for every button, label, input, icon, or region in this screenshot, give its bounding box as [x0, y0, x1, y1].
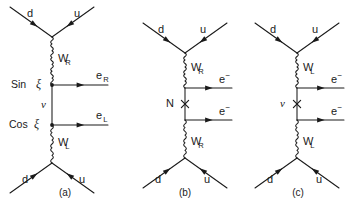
diagram-b-label-boson-1-subscript: R [198, 141, 204, 150]
diagram-c-arrow-bottom-in [275, 168, 283, 174]
diagram-b-label-boson-1: WR [191, 135, 204, 150]
diagram-c-label-lepton-0-base: e [331, 73, 337, 85]
diagram-c-caption: (c) [292, 187, 304, 198]
diagram-a-caption: (a) [59, 187, 71, 198]
diagram-a-label-boson-0-subscript: R [65, 58, 71, 67]
diagram-a-label-lepton-0-subscript: R [103, 75, 109, 84]
diagram-a-label-mixing-text-1: Cos [9, 118, 28, 130]
diagram-c-boson-wavy-0 [296, 53, 299, 88]
diagram-c-label-lepton-1: e− [331, 103, 342, 117]
diagram-b-label-lepton-0-base: e [219, 73, 225, 85]
diagram-a-label-lepton-1-base: e [96, 109, 102, 121]
diagram-a-label-lepton-1: eL [96, 109, 107, 124]
diagram-a-label-propagator: ν [41, 98, 46, 110]
diagram-a-label-quark-u-bottom: u [79, 173, 85, 185]
diagram-c-label-quark-u-bottom: u [316, 173, 322, 185]
diagram-a-label-boson-0: WR [58, 52, 71, 67]
diagram-c-label-boson-1: WL [303, 135, 314, 150]
diagram-b-label-lepton-1-base: e [219, 105, 225, 117]
diagram-a-label-lepton-0-base: e [96, 69, 102, 81]
diagram-c-label-boson-0-subscript: L [310, 67, 314, 76]
diagram-c-quark-line-bottom-in [255, 158, 297, 188]
diagram-b-label-lepton-0-superscript: − [225, 71, 230, 80]
diagram-c-label-quark-d-top: d [270, 23, 276, 35]
diagram-c-arrow-top-in [275, 36, 283, 42]
diagram-a-vertex-dot-0 [50, 83, 54, 87]
diagram-b-label-quark-u-top: u [200, 23, 206, 35]
diagram-b-label-propagator: N [166, 97, 174, 109]
diagram-canvas: duduWRWLeReLSinξCosξν(a)duduWRWRe−e−N(b)… [0, 0, 350, 211]
diagram-a-arrow-top-in [30, 20, 38, 26]
diagram-b-label-lepton-1-superscript: − [225, 103, 230, 112]
diagram-a-label-lepton-1-subscript: L [103, 115, 107, 124]
diagram-a-label-boson-1-subscript: L [65, 142, 69, 151]
diagram-b-arrow-lepton-0 [205, 85, 213, 90]
diagram-b-label-lepton-0: e− [219, 71, 230, 85]
diagram-a-quark-line-bottom-in [10, 163, 52, 193]
diagram-c-arrow-lepton-0 [317, 85, 325, 90]
diagram-a-label-lepton-0: eR [96, 69, 109, 84]
diagram-c-label-lepton-0: e− [331, 71, 342, 85]
feynman-diagram-figure: duduWRWLeReLSinξCosξν(a)duduWRWRe−e−N(b)… [0, 0, 350, 211]
diagram-c-label-quark-d-bottom: d [267, 173, 273, 185]
diagram-a-label-quark-u-top: u [74, 7, 80, 19]
diagram-b-label-quark-d-bottom: d [155, 173, 161, 185]
diagram-b-quark-line-bottom-in [143, 158, 185, 188]
diagram-b-boson-wavy-0 [184, 53, 187, 88]
diagram-a-label-quark-d-top: d [27, 7, 33, 19]
diagram-c-label-lepton-1-base: e [331, 105, 337, 117]
diagram-a-boson-wavy-0 [51, 37, 54, 85]
diagram-b-boson-wavy-1 [184, 120, 187, 158]
diagram-c-label-boson-1-subscript: L [310, 141, 314, 150]
diagram-c-label-lepton-1-superscript: − [337, 103, 342, 112]
diagram-b-label-boson-0: WR [191, 61, 204, 76]
diagram-a-arrow-bottom-in [30, 173, 38, 179]
diagram-b-arrow-top-out [200, 36, 208, 42]
diagram-c-arrow-lepton-1 [317, 117, 325, 122]
diagram-b-caption: (b) [179, 187, 191, 198]
diagram-b-arrow-bottom-in [163, 168, 171, 174]
diagram-a-label-mixing-symbol-1: ξ [34, 117, 40, 131]
diagram-a-boson-wavy-1 [51, 125, 54, 163]
diagram-c-label-propagator: ν [280, 97, 285, 109]
diagram-a-arrow-bottom-out [67, 173, 75, 179]
diagram-c-boson-wavy-1 [296, 120, 299, 158]
diagram-a-quark-line-top-out [52, 7, 94, 37]
diagram-a-label-quark-d-bottom: d [22, 173, 28, 185]
diagram-b-label-lepton-1: e− [219, 103, 230, 117]
diagram-a-label-mixing-symbol-0: ξ [36, 77, 42, 91]
diagram-b-label-quark-u-bottom: u [204, 173, 210, 185]
diagram-a-arrow-lepton-0 [77, 82, 85, 87]
diagram-a-vertex-dot-1 [50, 123, 54, 127]
diagram-c-label-boson-0: WL [303, 61, 314, 76]
diagram-c-label-quark-u-top: u [312, 23, 318, 35]
diagram-b-arrow-lepton-1 [205, 117, 213, 122]
diagram-a-arrow-lepton-1 [77, 122, 85, 127]
diagram-a-arrow-top-out [67, 20, 75, 26]
diagram-c-arrow-top-out [312, 36, 320, 42]
diagram-c-label-lepton-0-superscript: − [337, 71, 342, 80]
diagram-b-arrow-top-in [163, 36, 171, 42]
diagram-a-label-mixing-text-0: Sin [11, 78, 26, 90]
diagram-a-label-boson-1: WL [58, 136, 69, 151]
diagram-b-label-quark-d-top: d [158, 23, 164, 35]
diagram-b-label-boson-0-subscript: R [198, 67, 204, 76]
